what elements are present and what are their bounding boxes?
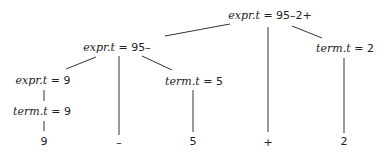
node-term-2: term.t = 2 (316, 43, 374, 54)
attr-value: 5 (216, 75, 223, 88)
leaf-2: 2 (341, 136, 348, 147)
node-term-5: term.t = 5 (165, 76, 223, 87)
attr-label: expr.t (83, 41, 115, 54)
attr-label: term.t (165, 75, 200, 88)
attr-label: term.t (316, 42, 351, 55)
attr-value: 95–2+ (276, 9, 312, 22)
leaf-5: 5 (190, 136, 197, 147)
attr-value: 9 (63, 74, 70, 87)
leaf-plus: + (263, 137, 272, 148)
node-expr-9: expr.t = 9 (16, 75, 71, 86)
attr-label: expr.t (228, 9, 260, 22)
attr-label: term.t (13, 105, 48, 118)
attr-value: 95– (131, 41, 151, 54)
attr-value: 9 (64, 105, 71, 118)
node-expr-95: expr.t = 95– (83, 42, 150, 53)
attr-label: expr.t (16, 74, 48, 87)
leaf-minus: – (116, 137, 122, 148)
node-root-expr: expr.t = 95–2+ (228, 10, 312, 21)
node-term-9: term.t = 9 (13, 106, 71, 117)
leaf-9: 9 (41, 136, 48, 147)
attr-value: 2 (367, 42, 374, 55)
